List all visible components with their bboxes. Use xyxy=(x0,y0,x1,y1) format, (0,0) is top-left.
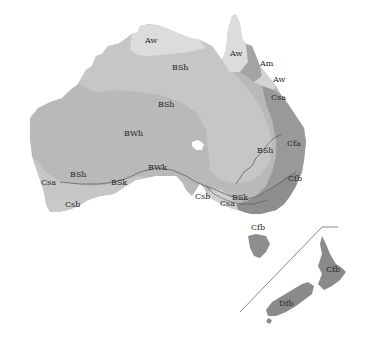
label-cfb-tas: Cfb xyxy=(251,223,265,232)
tasmania xyxy=(248,234,270,258)
label-am: Am xyxy=(259,59,274,68)
label-cfb-vic: Cfb xyxy=(288,174,302,183)
region-aw-cape-york xyxy=(222,14,248,72)
label-dfb-nz: Dfb xyxy=(279,299,294,308)
label-bwh: BWh xyxy=(124,129,143,138)
label-csa-qld: Csa xyxy=(271,93,286,102)
nz-stewart-island xyxy=(266,318,272,324)
label-bwk: BWk xyxy=(148,163,167,172)
label-aw-qld-coast: Aw xyxy=(272,75,285,84)
label-csb-sa: Csb xyxy=(195,192,210,201)
label-bsh-west: BSh xyxy=(70,170,87,179)
label-cfb-nz: Cfb xyxy=(326,265,340,274)
label-bsh-central: BSh xyxy=(158,100,175,109)
nz-north-island xyxy=(318,236,346,290)
label-csa-west: Csa xyxy=(41,178,56,187)
label-bsk-south: BSk xyxy=(111,178,127,187)
label-aw-nt: Aw xyxy=(144,36,157,45)
label-csa-vic: Csa xyxy=(220,199,235,208)
label-bsh-east: BSh xyxy=(257,146,274,155)
label-cfa: Cfa xyxy=(287,139,301,148)
label-csb-west: Csb xyxy=(65,200,80,209)
label-aw-cape-york: Aw xyxy=(229,49,242,58)
label-bsh-north: BSh xyxy=(172,63,189,72)
climate-map: Aw BSh Aw Am Aw Csa BSh BWh Cfa BSh BWk … xyxy=(0,0,369,340)
